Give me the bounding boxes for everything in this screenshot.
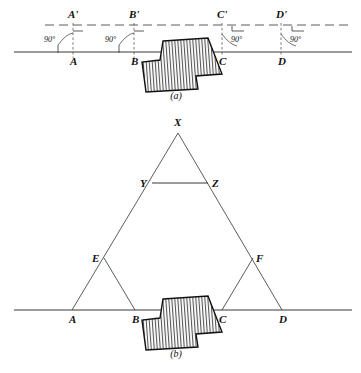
- angle-label-B: 90°: [105, 35, 117, 44]
- building-outline-panel-b: [142, 296, 222, 350]
- survey-diagram-svg: 90° 90° 90° 90° A' B' C' D' A B C D (a): [0, 0, 361, 373]
- point-label-D-panel-b: D: [278, 313, 287, 325]
- point-label-A-prime: A': [67, 8, 78, 20]
- point-label-B-prime: B': [128, 8, 139, 20]
- angle-arc-B: [119, 33, 134, 45]
- angle-arc-A: [58, 33, 73, 45]
- point-label-F: F: [255, 252, 264, 264]
- segment-E-B: [104, 258, 135, 310]
- point-label-C-prime: C': [217, 8, 227, 20]
- panel-b-caption: (b): [170, 348, 182, 360]
- segment-F-C: [222, 258, 253, 310]
- angle-label-C: 90°: [231, 35, 243, 44]
- building-outline-panel-a: [142, 38, 222, 92]
- right-angle-tick-C: [232, 26, 244, 31]
- point-label-D-prime: D': [275, 8, 287, 20]
- panel-b: X Y Z E F A B C D (b): [14, 116, 352, 360]
- point-label-B: B: [130, 55, 138, 67]
- angle-label-A: 90°: [44, 35, 56, 44]
- angle-label-D: 90°: [290, 35, 302, 44]
- point-label-X: X: [173, 116, 182, 128]
- point-label-B-panel-b: B: [131, 313, 139, 325]
- point-label-C: C: [219, 55, 227, 67]
- point-label-Z: Z: [211, 177, 219, 189]
- point-label-Y: Y: [140, 177, 148, 189]
- right-angle-tick-D: [292, 26, 304, 31]
- point-label-C-panel-b: C: [219, 313, 227, 325]
- point-label-A: A: [69, 55, 77, 67]
- point-label-A-panel-b: A: [68, 313, 76, 325]
- point-label-D: D: [277, 55, 286, 67]
- point-label-E: E: [91, 252, 99, 264]
- panel-a: 90° 90° 90° 90° A' B' C' D' A B C D (a): [14, 8, 352, 102]
- figure-root: 90° 90° 90° 90° A' B' C' D' A B C D (a): [0, 0, 361, 373]
- segment-D-X: [178, 133, 282, 310]
- panel-a-caption: (a): [170, 90, 182, 102]
- segment-A-X: [72, 133, 178, 310]
